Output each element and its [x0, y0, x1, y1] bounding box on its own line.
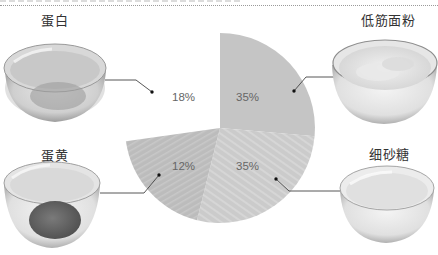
ingredient-label-yolk: 蛋黄 [41, 145, 68, 164]
percent-label-yolk: 12% [172, 160, 195, 172]
ingredient-label-flour: 低筋面粉 [361, 10, 415, 29]
pie-slices [126, 33, 315, 223]
leader-line-egg-white [105, 80, 152, 92]
percent-label-flour: 35% [236, 91, 259, 103]
ingredient-label-sugar: 细砂糖 [369, 144, 410, 163]
percent-label-sugar: 35% [236, 160, 259, 172]
bowl-egg-white-icon [4, 44, 106, 122]
percent-label-egg-white: 18% [172, 91, 195, 103]
pie-chart: 18% 35% 12% 35% [0, 0, 438, 255]
ingredient-label-egg-white: 蛋白 [41, 10, 68, 29]
bowl-flour-icon [332, 40, 437, 124]
slice-flour [220, 33, 315, 136]
bowl-sugar-icon [340, 166, 434, 243]
bowl-yolk-icon [4, 162, 100, 248]
